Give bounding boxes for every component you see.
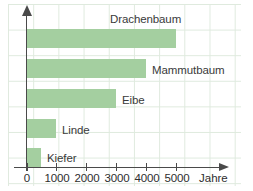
bar-label-eibe: Eibe <box>122 94 145 106</box>
x-tick-label-5000: 5000 <box>164 172 189 184</box>
x-axis-arrow-icon <box>219 163 229 171</box>
x-tick-4000 <box>146 163 147 171</box>
bar-mammutbaum <box>26 59 146 78</box>
bar-chart-figure: Drachenbaum Mammutbaum Eibe Linde Kiefer… <box>0 0 253 191</box>
bar-drachenbaum <box>26 29 176 48</box>
y-axis-arrow-icon <box>22 5 32 16</box>
x-tick-label-1000: 1000 <box>44 172 69 184</box>
bar-label-mammutbaum: Mammutbaum <box>152 64 225 76</box>
x-tick-2000 <box>86 163 87 171</box>
x-tick-5000 <box>176 163 177 171</box>
x-tick-label-4000: 4000 <box>134 172 159 184</box>
bar-label-linde: Linde <box>62 124 90 136</box>
x-tick-1000 <box>56 163 57 171</box>
bar-label-drachenbaum: Drachenbaum <box>110 13 181 25</box>
bar-kiefer <box>26 148 41 167</box>
x-tick-label-3000: 3000 <box>104 172 129 184</box>
x-tick-label-2000: 2000 <box>74 172 99 184</box>
x-axis-title: Jahre <box>199 172 228 184</box>
y-axis-line <box>26 14 27 167</box>
bar-eibe <box>26 89 116 108</box>
x-tick-0 <box>26 163 27 171</box>
bar-linde <box>26 119 56 138</box>
x-tick-3000 <box>116 163 117 171</box>
bar-label-kiefer: Kiefer <box>47 152 76 164</box>
x-tick-label-0: 0 <box>24 172 30 184</box>
plot-area: Drachenbaum Mammutbaum Eibe Linde Kiefer… <box>0 0 253 191</box>
